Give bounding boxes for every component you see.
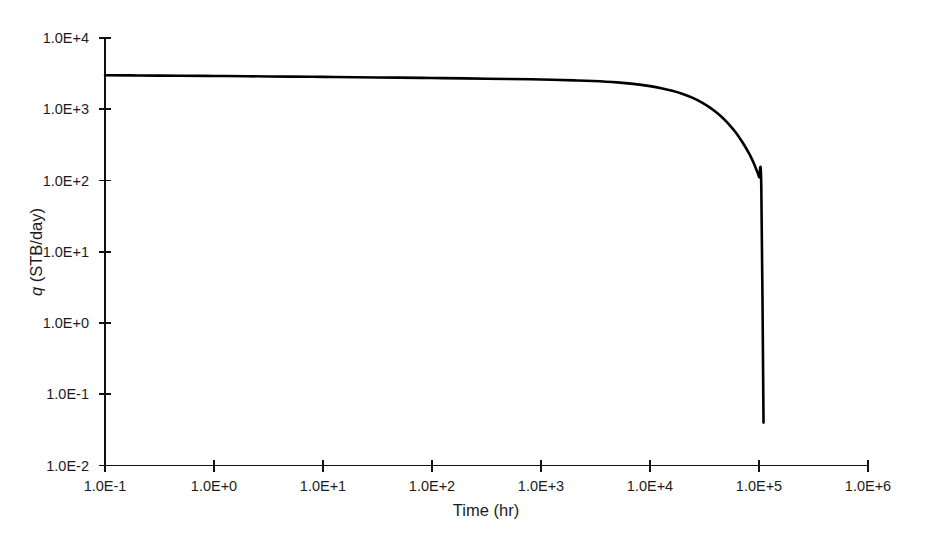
x-tick-label: 1.0E+4	[627, 478, 673, 494]
chart-canvas: 1.0E-21.0E-11.0E+01.0E+11.0E+21.0E+31.0E…	[0, 0, 928, 543]
y-tick-label: 1.0E-2	[46, 458, 89, 474]
y-tick-label: 1.0E+4	[43, 30, 89, 46]
x-tick-label: 1.0E+1	[300, 478, 346, 494]
x-tick-label: 1.0E+0	[191, 478, 237, 494]
y-axis-title: q (STB/day)	[27, 208, 45, 296]
y-tick-label: 1.0E+2	[43, 173, 89, 189]
x-tick-label: 1.0E+6	[845, 478, 891, 494]
x-tick-label: 1.0E-1	[84, 478, 127, 494]
x-axis-title: Time (hr)	[453, 501, 519, 519]
x-tick-label: 1.0E+3	[518, 478, 564, 494]
chart-background	[0, 0, 928, 543]
y-tick-label: 1.0E+1	[43, 244, 89, 260]
x-tick-label: 1.0E+2	[409, 478, 455, 494]
y-tick-label: 1.0E+0	[43, 315, 89, 331]
y-tick-label: 1.0E+3	[43, 101, 89, 117]
x-tick-label: 1.0E+5	[736, 478, 782, 494]
chart-figure: 1.0E-21.0E-11.0E+01.0E+11.0E+21.0E+31.0E…	[0, 0, 928, 543]
y-tick-label: 1.0E-1	[46, 386, 89, 402]
